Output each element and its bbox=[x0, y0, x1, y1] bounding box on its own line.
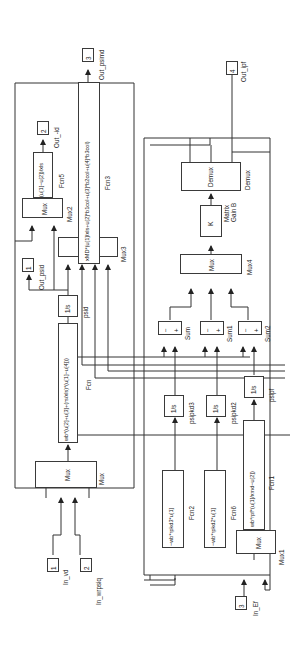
fcn2-label: Fcn2 bbox=[188, 506, 195, 520]
integrator-psipkd3[interactable]: 1/s bbox=[164, 395, 184, 417]
fcn1-expr: wb*rpf*(u[1]/xmd−u[2]) bbox=[249, 471, 255, 527]
integrator-text: 1/s bbox=[170, 405, 177, 413]
fcn3-expr: xMD*(u[1]/xls+u[2]*b1col+u[3]*b2col+u[4]… bbox=[84, 141, 90, 261]
inport-label: In_Ef bbox=[252, 601, 259, 616]
integrator-label: psid bbox=[82, 306, 89, 318]
mux1-label: Mux1 bbox=[278, 550, 285, 565]
matrix-gain-block[interactable]: K bbox=[200, 205, 222, 237]
fcn6-expr: −wb*rpkd2*u[1] bbox=[210, 508, 216, 546]
integrator-psid[interactable]: 1/s bbox=[58, 295, 78, 317]
inport-label: In_vd bbox=[62, 570, 69, 585]
mux-text: Mux bbox=[64, 469, 71, 481]
inport-3[interactable]: 3 bbox=[235, 596, 247, 610]
integrator-text: 1/s bbox=[250, 386, 257, 394]
mux2-label: Mux2 bbox=[66, 207, 73, 222]
fcn5-expr: (u[1]−u[2])/xls bbox=[38, 163, 44, 197]
fcn1-block[interactable]: wb*rpf*(u[1]/xmd−u[2]) bbox=[243, 420, 265, 530]
fcn6-block[interactable]: −wb*rpkd2*u[1] bbox=[204, 470, 226, 548]
fcn-expr: wb*(u[2]+u[3]+(rs/xls)*(u[1]−u[4])) bbox=[63, 358, 69, 441]
mux-block[interactable]: Mux bbox=[35, 461, 97, 488]
fcn2-expr: −wb*rpkd3*u[1] bbox=[168, 508, 174, 546]
integrator-psipkd2[interactable]: 1/s bbox=[206, 395, 226, 417]
gain-label-line1: Matrix bbox=[223, 205, 230, 222]
fcn-label: Fcn bbox=[85, 380, 92, 391]
fcn5-block[interactable]: (u[1]−u[2])/xls bbox=[33, 152, 53, 198]
outport-number: 2 bbox=[40, 129, 47, 133]
mux-label: Mux bbox=[98, 473, 105, 485]
sum1-label: Sum1 bbox=[226, 326, 233, 342]
sum2-block[interactable]: − + bbox=[238, 321, 262, 335]
simulink-diagram: 1 In_vd 2 In_wrpsiq 3 In_Ef 1 Out_psid 2… bbox=[0, 0, 305, 653]
outport-number: 3 bbox=[85, 56, 92, 60]
fcn-block[interactable]: wb*(u[2]+u[3]+(rs/xls)*(u[1]−u[4])) bbox=[58, 323, 78, 443]
outport-label: Out_psimd bbox=[98, 50, 105, 80]
demux-text: Demux bbox=[207, 167, 214, 187]
inport-2[interactable]: 2 bbox=[80, 558, 92, 572]
fcn2-block[interactable]: −wb*rpkd3*u[1] bbox=[162, 470, 184, 548]
mux4-text: Mux bbox=[208, 259, 215, 271]
inport-number: 1 bbox=[50, 566, 57, 570]
inport-label: In_wrpsiq bbox=[95, 578, 102, 605]
outport-4[interactable]: 4 bbox=[226, 61, 238, 75]
integrator-label: psipkd3 bbox=[188, 402, 195, 424]
fcn5-label: Fcn5 bbox=[58, 174, 65, 188]
sum-block[interactable]: − + bbox=[158, 321, 182, 335]
sum2-minus-sign: − bbox=[242, 328, 249, 332]
sum-minus-sign: − bbox=[162, 328, 169, 332]
sum1-minus-sign: − bbox=[204, 328, 211, 332]
outport-3[interactable]: 3 bbox=[82, 48, 94, 62]
fcn1-label: Fcn1 bbox=[268, 476, 275, 490]
integrator-psipf[interactable]: 1/s bbox=[244, 376, 264, 398]
outport-label: Out_-id bbox=[53, 127, 60, 148]
inport-number: 2 bbox=[83, 566, 90, 570]
gain-label-line2: Gain B bbox=[230, 203, 237, 222]
sum-plus-sign: + bbox=[173, 328, 180, 332]
integrator-label: psipf bbox=[268, 389, 275, 402]
outport-label: Out_ipf bbox=[240, 62, 247, 82]
mux3-label: Mux3 bbox=[120, 247, 127, 262]
integrator-label: psipkd2 bbox=[230, 402, 237, 424]
sum2-plus-sign: + bbox=[253, 328, 260, 332]
fcn3-label: Fcn3 bbox=[104, 176, 111, 190]
integrator-text: 1/s bbox=[64, 305, 71, 313]
mux4-label: Mux4 bbox=[246, 260, 253, 275]
sum2-label: Sum2 bbox=[264, 326, 271, 342]
mux2-text: Mux bbox=[41, 203, 48, 215]
outport-number: 1 bbox=[25, 266, 32, 270]
mux2-block[interactable]: Mux bbox=[22, 198, 63, 218]
sum1-block[interactable]: − + bbox=[200, 321, 224, 335]
outport-label: Out_psid bbox=[38, 265, 45, 290]
integrator-text: 1/s bbox=[212, 405, 219, 413]
fcn6-label: Fcn6 bbox=[230, 506, 237, 520]
mux1-block[interactable]: Mux bbox=[236, 530, 276, 554]
outport-number: 4 bbox=[229, 69, 236, 73]
gain-text: K bbox=[207, 221, 214, 226]
inport-number: 3 bbox=[238, 604, 245, 608]
inport-1[interactable]: 1 bbox=[47, 558, 59, 572]
outport-1[interactable]: 1 bbox=[22, 258, 34, 272]
outport-2[interactable]: 2 bbox=[37, 121, 49, 135]
mux4-block[interactable]: Mux bbox=[180, 254, 242, 274]
demux-label: Demux bbox=[244, 170, 251, 190]
sum1-plus-sign: + bbox=[215, 328, 222, 332]
demux-block[interactable]: Demux bbox=[181, 162, 241, 191]
sum-label: Sum bbox=[184, 327, 191, 340]
mux1-text: Mux bbox=[255, 537, 262, 549]
fcn3-block[interactable]: xMD*(u[1]/xls+u[2]*b1col+u[3]*b2col+u[4]… bbox=[78, 82, 100, 264]
